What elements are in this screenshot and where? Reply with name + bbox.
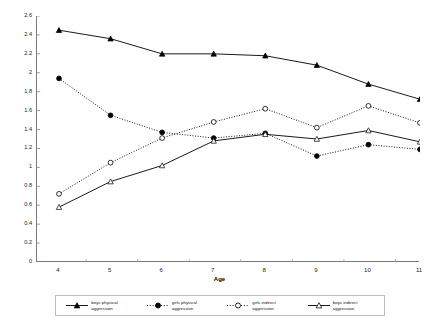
data-point-marker [366, 103, 371, 108]
data-point-marker [159, 163, 164, 168]
x-tick-label: 6 [151, 267, 171, 273]
legend-marker-filled-circle-icon [146, 301, 170, 310]
series-1 [57, 76, 420, 158]
data-point-marker [57, 191, 62, 196]
y-tick-label: 2 [0, 70, 32, 76]
legend-item[interactable]: girls physical aggression [146, 300, 214, 311]
y-tick-label: 1.2 [0, 145, 32, 151]
legend-label: boys physical aggression [91, 300, 133, 311]
data-point-marker [108, 113, 113, 118]
x-tick-label: 5 [100, 267, 120, 273]
y-tick-label: 2.2 [0, 51, 32, 57]
x-tick-label: 9 [306, 267, 326, 273]
series-line [59, 130, 420, 207]
x-tick-label: 4 [48, 267, 68, 273]
legend-item[interactable]: boys physical aggression [65, 300, 133, 311]
data-point-marker [418, 147, 420, 152]
data-point-marker [211, 120, 216, 125]
plot-area [36, 16, 419, 262]
data-point-marker [56, 27, 61, 32]
data-point-marker [108, 160, 113, 165]
legend-marker-filled-triangle-icon [65, 301, 89, 310]
series-3 [56, 128, 420, 210]
y-tick-label: 2.4 [0, 32, 32, 38]
y-tick-label: 2.6 [0, 13, 32, 19]
data-point-marker [366, 81, 371, 86]
y-tick-label: 0.8 [0, 183, 32, 189]
data-point-marker [57, 76, 62, 81]
legend-item[interactable]: boys indirect aggression [307, 300, 375, 311]
y-tick-label: 1.6 [0, 108, 32, 114]
line-chart: Frequency of aggressive behavior 00.20.4… [0, 0, 439, 323]
x-tick-label: 7 [203, 267, 223, 273]
y-tick-label: 0.4 [0, 221, 32, 227]
legend-label: girls indirect aggression [252, 300, 294, 311]
data-point-marker [263, 106, 268, 111]
data-point-marker [314, 125, 319, 130]
data-point-marker [56, 204, 61, 209]
y-tick-label: 1.8 [0, 89, 32, 95]
legend-label: girls physical aggression [172, 300, 214, 311]
data-point-marker [366, 142, 371, 147]
y-tick-label: 1 [0, 164, 32, 170]
legend-marker-open-circle-icon [226, 301, 250, 310]
data-point-marker [160, 136, 165, 141]
y-tick-label: 0 [0, 259, 32, 265]
data-point-marker [314, 154, 319, 159]
x-tick-label: 8 [254, 267, 274, 273]
y-tick-label: 0.6 [0, 202, 32, 208]
legend-marker-open-triangle-icon [307, 301, 331, 310]
data-point-marker [418, 121, 420, 126]
series-0 [56, 27, 420, 101]
data-point-marker [417, 97, 420, 102]
y-tick-label: 1.4 [0, 127, 32, 133]
legend-item[interactable]: girls indirect aggression [226, 300, 294, 311]
legend-label: boys indirect aggression [333, 300, 375, 311]
data-point-marker [160, 130, 165, 135]
y-tick-label: 0.2 [0, 240, 32, 246]
x-tick-label: 11 [409, 267, 429, 273]
x-tick-label: 10 [357, 267, 377, 273]
chart-legend: boys physical aggressiongirls physical a… [55, 295, 385, 316]
plot-svg [37, 16, 420, 262]
data-point-marker [366, 128, 371, 133]
x-axis-title: Age [0, 276, 439, 282]
